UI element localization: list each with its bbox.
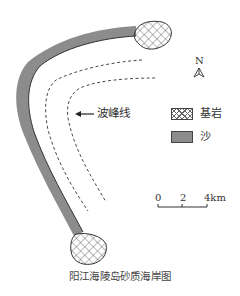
bedrock-bottom <box>71 233 107 264</box>
legend-swatch-sand <box>171 131 193 143</box>
figure-caption: 阳江海陵岛砂质海岸图 <box>0 268 240 283</box>
bedrock-top <box>134 21 171 49</box>
legend-label-sand: 沙 <box>200 131 211 142</box>
scale-tick-2: 2 <box>180 193 186 203</box>
legend-label-bedrock: 基岩 <box>200 108 222 119</box>
scale-bar <box>158 204 207 207</box>
arrow-left-icon <box>75 111 94 117</box>
scale-tick-4km: 4km <box>204 193 226 203</box>
north-label: N <box>195 56 204 66</box>
legend-swatch-bedrock <box>171 108 193 120</box>
wave-crest-label: 波峰线 <box>97 108 130 120</box>
scale-tick-0: 0 <box>155 193 161 203</box>
coastline-map <box>0 0 240 296</box>
north-arrow-icon <box>194 68 204 77</box>
wave-crest-line-inner <box>68 78 156 202</box>
